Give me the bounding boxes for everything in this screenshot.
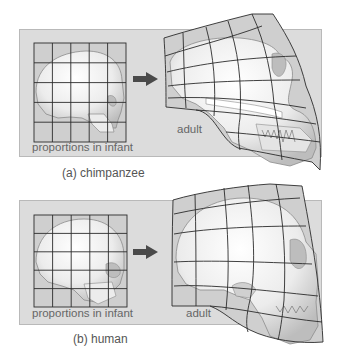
infant-human-grid: [34, 215, 127, 307]
infant-label-human: proportions in infant: [32, 307, 133, 319]
caption-human: (b) human: [73, 332, 128, 346]
adult-chimp-grid: [164, 14, 320, 170]
adult-label-human: adult: [186, 307, 211, 319]
infant-label-chimpanzee: proportions in infant: [32, 141, 133, 153]
arrow-icon: [133, 245, 158, 259]
adult-human-grid: [172, 184, 323, 344]
adult-label-chimpanzee: adult: [177, 123, 202, 135]
caption-chimpanzee: (a) chimpanzee: [62, 166, 145, 180]
arrow-icon: [133, 72, 158, 86]
infant-chimp-grid: [34, 43, 126, 142]
